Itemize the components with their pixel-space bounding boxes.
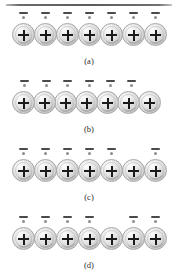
electron-dot-icon [44, 152, 47, 155]
plus-charge-icon [145, 160, 166, 181]
plus-charge-icon [145, 24, 166, 45]
electron-bar-icon [63, 148, 72, 150]
electron-dot-icon [88, 84, 91, 87]
positive-ion-core [54, 91, 77, 114]
panel-d: (d) [0, 216, 178, 258]
electron-dot-icon [66, 84, 69, 87]
electron-dot-icon [44, 220, 47, 223]
positive-ion-core [12, 227, 35, 250]
electron-dot-icon [22, 16, 25, 19]
electron-dot-icon [66, 152, 69, 155]
positive-ion-core [34, 227, 57, 250]
ion-lattice-a [0, 12, 178, 54]
electron-bar-icon [85, 12, 94, 14]
plus-charge-icon [13, 24, 34, 45]
ion-lattice-d [0, 216, 178, 258]
plus-charge-icon [79, 228, 100, 249]
positive-ion-core [56, 227, 79, 250]
electron-dot-icon [66, 220, 69, 223]
ion-lattice-c [0, 148, 178, 190]
electron-dot-icon [154, 16, 157, 19]
plus-charge-icon [97, 92, 118, 113]
top-rule-divider [6, 4, 172, 6]
plus-charge-icon [123, 160, 144, 181]
ion-lattice-b [0, 80, 178, 122]
positive-ion-core [75, 91, 98, 114]
plus-charge-icon [55, 92, 76, 113]
electron-bar-icon [19, 12, 28, 14]
plus-charge-icon [139, 92, 160, 113]
electron-dot-icon [132, 220, 135, 223]
electron-bar-icon [41, 216, 50, 218]
electron-marker [151, 216, 160, 225]
positive-ion-core [122, 23, 145, 46]
electron-marker [151, 12, 160, 21]
electron-bar-icon [42, 80, 51, 82]
electron-dot-icon [109, 84, 112, 87]
caption-a: (a) [0, 56, 178, 66]
plus-charge-icon [101, 24, 122, 45]
electron-bar-icon [41, 12, 50, 14]
electron-marker [63, 148, 72, 157]
positive-ion-core [122, 227, 145, 250]
plus-charge-icon [145, 228, 166, 249]
electron-dot-icon [110, 152, 113, 155]
caption-b: (b) [0, 124, 178, 134]
plus-charge-icon [13, 160, 34, 181]
electron-dot-icon [23, 84, 26, 87]
positive-ion-core [78, 23, 101, 46]
electron-marker [85, 12, 94, 21]
electron-bar-icon [63, 12, 72, 14]
electron-dot-icon [132, 16, 135, 19]
positive-ion-core [122, 159, 145, 182]
electron-marker [19, 12, 28, 21]
electron-bar-icon [127, 80, 136, 82]
electron-dot-icon [22, 220, 25, 223]
electron-marker [63, 80, 72, 89]
positive-ion-core [138, 91, 161, 114]
plus-charge-icon [13, 92, 34, 113]
positive-ion-core [12, 91, 35, 114]
electron-bar-icon [129, 12, 138, 14]
positive-ion-core [56, 23, 79, 46]
caption-d: (d) [0, 260, 178, 270]
electron-bar-icon [151, 12, 160, 14]
electron-marker [107, 12, 116, 21]
figure-root: (a) (b) (c) (d) [0, 0, 178, 273]
electron-bar-icon [85, 80, 94, 82]
positive-ion-core [100, 227, 123, 250]
electron-bar-icon [107, 12, 116, 14]
electron-marker [85, 80, 94, 89]
electron-bar-icon [151, 216, 160, 218]
electron-dot-icon [88, 152, 91, 155]
positive-ion-core [100, 23, 123, 46]
electron-marker [107, 148, 116, 157]
electron-marker [85, 216, 94, 225]
plus-charge-icon [57, 24, 78, 45]
electron-bar-icon [19, 216, 28, 218]
electron-marker [127, 80, 136, 89]
electron-bar-icon [85, 148, 94, 150]
panel-a: (a) [0, 12, 178, 54]
electron-dot-icon [130, 84, 133, 87]
electron-marker [41, 12, 50, 21]
electron-bar-icon [107, 148, 116, 150]
electron-bar-icon [41, 148, 50, 150]
plus-charge-icon [35, 24, 56, 45]
plus-charge-icon [123, 24, 144, 45]
positive-ion-core [100, 159, 123, 182]
electron-marker [41, 148, 50, 157]
electron-bar-icon [106, 80, 115, 82]
plus-charge-icon [101, 160, 122, 181]
panel-b: (b) [0, 80, 178, 122]
plus-charge-icon [35, 160, 56, 181]
electron-marker [19, 148, 28, 157]
plus-charge-icon [79, 24, 100, 45]
electron-marker [42, 80, 51, 89]
electron-dot-icon [88, 220, 91, 223]
plus-charge-icon [118, 92, 139, 113]
plus-charge-icon [13, 228, 34, 249]
positive-ion-core [56, 159, 79, 182]
positive-ion-core [12, 159, 35, 182]
plus-charge-icon [57, 228, 78, 249]
